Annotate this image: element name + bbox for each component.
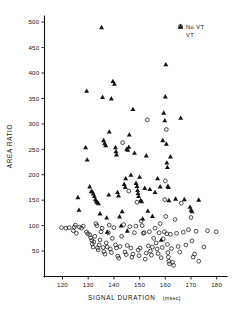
data-point-no-vt bbox=[146, 244, 150, 248]
data-point-no-vt bbox=[112, 226, 116, 230]
data-point-vt bbox=[166, 198, 171, 202]
data-point-vt bbox=[168, 154, 173, 158]
data-point-vt bbox=[163, 94, 168, 98]
data-point-no-vt bbox=[166, 251, 170, 255]
data-point-vt bbox=[87, 184, 92, 188]
y-tick-label: 150 bbox=[28, 196, 39, 203]
data-point-vt bbox=[76, 208, 81, 212]
data-point-no-vt bbox=[151, 245, 155, 249]
x-tick-label: 130 bbox=[83, 281, 94, 288]
data-point-no-vt bbox=[164, 128, 168, 132]
data-point-no-vt bbox=[190, 239, 194, 243]
data-point-vt bbox=[104, 215, 109, 219]
data-point-vt bbox=[153, 190, 158, 194]
data-point-vt bbox=[142, 186, 147, 190]
data-point-no-vt bbox=[107, 223, 111, 227]
data-point-no-vt bbox=[189, 216, 193, 220]
data-point-vt bbox=[165, 165, 170, 169]
data-point-vt bbox=[115, 190, 120, 194]
data-point-no-vt bbox=[134, 224, 138, 228]
data-point-vt bbox=[119, 223, 124, 227]
data-point-no-vt bbox=[127, 189, 131, 193]
data-point-no-vt bbox=[149, 249, 153, 253]
data-point-no-vt bbox=[121, 141, 125, 145]
data-point-vt bbox=[182, 197, 187, 201]
data-point-vt bbox=[196, 197, 201, 201]
data-point-no-vt bbox=[101, 246, 105, 250]
data-point-no-vt bbox=[60, 226, 64, 230]
data-point-no-vt bbox=[153, 226, 157, 230]
data-point-no-vt bbox=[202, 245, 206, 249]
y-tick-label: 450 bbox=[28, 44, 39, 51]
data-point-no-vt bbox=[163, 198, 167, 202]
data-point-vt bbox=[140, 216, 145, 220]
y-tick-label: 350 bbox=[28, 95, 39, 102]
data-point-vt bbox=[125, 228, 130, 232]
data-point-no-vt bbox=[93, 234, 97, 238]
data-point-vt bbox=[147, 187, 152, 191]
y-tick-label: 100 bbox=[28, 222, 39, 229]
legend-label-no-vt: No VT bbox=[186, 24, 204, 30]
data-point-vt bbox=[159, 238, 164, 242]
data-point-no-vt bbox=[169, 232, 173, 236]
y-axis-title: AREA RATIO bbox=[6, 124, 13, 168]
data-point-no-vt bbox=[144, 251, 148, 255]
data-point-no-vt bbox=[74, 231, 78, 235]
y-tick-label: 500 bbox=[28, 18, 39, 25]
data-point-vt bbox=[75, 195, 80, 199]
y-tick-label: 400 bbox=[28, 69, 39, 76]
y-tick-label: 300 bbox=[28, 120, 39, 127]
x-tick-label: 180 bbox=[211, 281, 222, 288]
data-point-no-vt bbox=[129, 246, 133, 250]
data-point-vt bbox=[107, 129, 112, 133]
x-axis-title: SIGNAL DURATION bbox=[88, 294, 156, 301]
data-point-no-vt bbox=[159, 256, 163, 260]
data-point-no-vt bbox=[156, 252, 160, 256]
data-point-no-vt bbox=[166, 255, 170, 259]
data-point-vt bbox=[160, 138, 165, 142]
data-point-no-vt bbox=[140, 224, 144, 228]
data-point-no-vt bbox=[109, 251, 113, 255]
data-point-vt bbox=[188, 204, 193, 208]
data-point-no-vt bbox=[187, 228, 191, 232]
data-point-no-vt bbox=[152, 236, 156, 240]
data-point-no-vt bbox=[175, 231, 179, 235]
data-point-no-vt bbox=[133, 231, 137, 235]
data-point-vt bbox=[163, 62, 168, 66]
data-point-no-vt bbox=[98, 238, 102, 242]
data-point-vt bbox=[106, 192, 111, 196]
data-point-no-vt bbox=[157, 231, 161, 235]
data-point-no-vt bbox=[179, 201, 183, 205]
data-point-vt bbox=[109, 96, 114, 100]
data-point-vt bbox=[127, 132, 132, 136]
data-point-vt bbox=[134, 181, 139, 185]
data-point-vt bbox=[105, 229, 110, 233]
data-point-vt bbox=[173, 196, 178, 200]
series-vt-points bbox=[75, 25, 201, 242]
data-point-vt bbox=[162, 118, 167, 122]
x-tick-label: 170 bbox=[185, 281, 196, 288]
data-point-no-vt bbox=[128, 225, 132, 229]
data-point-no-vt bbox=[137, 254, 141, 258]
data-point-vt bbox=[113, 145, 118, 149]
data-point-vt bbox=[145, 209, 150, 213]
data-point-no-vt bbox=[164, 215, 168, 219]
data-point-vt bbox=[83, 145, 88, 149]
data-point-no-vt bbox=[184, 243, 188, 247]
data-point-no-vt bbox=[214, 230, 218, 234]
data-point-no-vt bbox=[118, 245, 122, 249]
data-point-no-vt bbox=[120, 234, 124, 238]
x-tick-label: 120 bbox=[57, 281, 68, 288]
data-point-vt bbox=[100, 95, 105, 99]
data-point-vt bbox=[132, 151, 137, 155]
y-tick-label: 50 bbox=[32, 247, 40, 254]
data-point-vt bbox=[155, 176, 160, 180]
data-point-no-vt bbox=[104, 241, 108, 245]
data-point-no-vt bbox=[194, 229, 198, 233]
y-tick-label: 200 bbox=[28, 171, 39, 178]
data-point-vt bbox=[144, 153, 149, 157]
data-point-vt bbox=[135, 188, 140, 192]
data-point-vt bbox=[126, 144, 131, 148]
data-point-no-vt bbox=[197, 259, 201, 263]
data-point-no-vt bbox=[143, 257, 147, 261]
